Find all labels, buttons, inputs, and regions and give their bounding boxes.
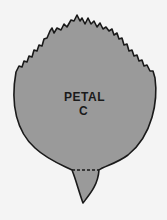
petal-label-title: PETAL xyxy=(1,90,167,104)
petal-diagram: PETAL C xyxy=(0,0,167,220)
petal-label-letter: C xyxy=(0,104,167,118)
